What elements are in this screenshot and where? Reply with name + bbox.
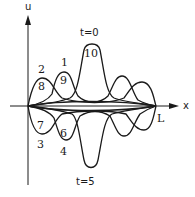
labels: u x L t=0 t=5 10 1 9 2 8 7 3 6 4 bbox=[25, 1, 189, 187]
curve-label-9: 9 bbox=[60, 74, 67, 87]
curve-label-1: 1 bbox=[61, 56, 68, 69]
wave-evolution-diagram: u x L t=0 t=5 10 1 9 2 8 7 3 6 4 bbox=[0, 0, 195, 197]
curve-label-2: 2 bbox=[38, 63, 45, 76]
end-label-L: L bbox=[157, 112, 165, 125]
time-label-bottom: t=5 bbox=[76, 176, 95, 187]
curve-label-3: 3 bbox=[37, 138, 44, 151]
lower-curves bbox=[28, 106, 156, 168]
curve-label-6: 6 bbox=[60, 127, 67, 140]
curve-label-10: 10 bbox=[84, 47, 98, 60]
x-axis-label: x bbox=[183, 100, 189, 111]
curve-label-8: 8 bbox=[38, 80, 45, 93]
curve-inner-lower bbox=[28, 106, 156, 111]
curve-label-4: 4 bbox=[60, 145, 67, 158]
x-axis-arrow-icon bbox=[169, 103, 179, 109]
u-axis-label: u bbox=[25, 1, 31, 12]
axes bbox=[10, 15, 179, 185]
time-label-top: t=0 bbox=[80, 27, 99, 38]
curve-t5 bbox=[28, 106, 156, 168]
curve-label-7: 7 bbox=[37, 119, 44, 132]
u-axis-arrow-icon bbox=[25, 15, 31, 25]
